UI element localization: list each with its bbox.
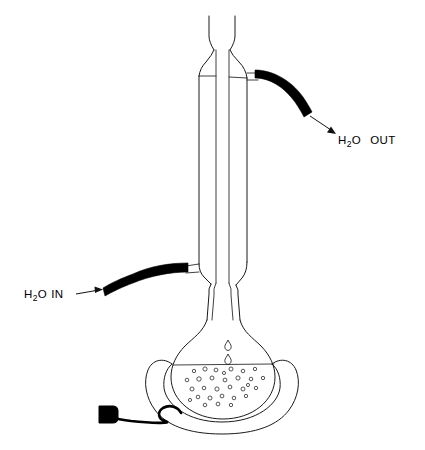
bubble-6 xyxy=(185,378,189,382)
bubble-28 xyxy=(222,371,225,374)
water-in-label: H2OIN xyxy=(24,288,64,303)
water-in-leader xyxy=(76,287,103,295)
bubble-5 xyxy=(253,367,256,370)
bubble-18 xyxy=(254,386,257,389)
bubble-15 xyxy=(215,387,219,391)
condensate-drops xyxy=(225,340,231,364)
bubble-7 xyxy=(197,377,201,381)
bubble-0 xyxy=(192,369,195,372)
bubble-1 xyxy=(203,367,207,371)
bubble-12 xyxy=(261,376,264,379)
bubble-23 xyxy=(244,394,247,397)
bubble-11 xyxy=(249,377,253,381)
condenser-inner-tube xyxy=(216,50,229,283)
water-out-label-element: H xyxy=(338,134,347,146)
water-out-label-direction: OUT xyxy=(370,134,395,146)
bubble-27 xyxy=(188,398,191,401)
boiling-liquid xyxy=(173,364,274,407)
bubble-8 xyxy=(210,376,214,380)
bubble-4 xyxy=(241,369,245,373)
water-in-label-oxygen: O xyxy=(38,288,47,300)
condensate-drop-upper xyxy=(225,340,231,350)
water-out-label-oxygen: O xyxy=(352,134,361,146)
heating-mantle xyxy=(146,360,299,434)
bubble-16 xyxy=(228,385,232,389)
diagram-canvas: Reflux apparatus with condenser, round-b… xyxy=(0,0,425,450)
bubble-26 xyxy=(229,403,232,406)
power-cord xyxy=(114,406,181,423)
bubble-17 xyxy=(241,387,245,391)
water-out-leader xyxy=(310,116,336,134)
inlet-hose xyxy=(103,263,188,296)
liquid-bubbles xyxy=(185,367,264,407)
bubble-14 xyxy=(202,386,206,390)
round-bottom-flask xyxy=(171,320,275,419)
bubble-21 xyxy=(220,394,224,398)
bubble-3 xyxy=(229,367,233,371)
bubble-9 xyxy=(223,378,227,382)
water-out-label: H2OOUT xyxy=(338,134,396,149)
bubble-25 xyxy=(216,402,220,406)
bubble-29 xyxy=(246,383,249,386)
bubble-19 xyxy=(196,395,200,399)
condenser-jacket xyxy=(199,50,247,285)
bubble-2 xyxy=(214,368,218,372)
bubble-22 xyxy=(232,396,236,400)
power-plug xyxy=(99,406,118,423)
bubble-20 xyxy=(208,396,212,400)
water-in-label-direction: IN xyxy=(51,288,63,300)
bubble-10 xyxy=(236,376,240,380)
water-in-label-element: H xyxy=(24,288,33,300)
condensate-drop-lower xyxy=(225,354,231,364)
outlet-hose xyxy=(255,70,312,117)
bubble-24 xyxy=(203,403,207,407)
reflux-apparatus-figure: Reflux apparatus with condenser, round-b… xyxy=(0,0,425,450)
bubble-13 xyxy=(190,387,194,391)
condenser-top-opening xyxy=(209,16,235,50)
ground-glass-joint xyxy=(207,283,240,320)
